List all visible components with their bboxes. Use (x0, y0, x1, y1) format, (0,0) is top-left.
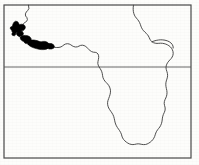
africa-map-svg (0, 0, 199, 165)
range-patch-small-island-a (16, 29, 21, 33)
map-background (0, 0, 199, 165)
range-patch-nigeria-west (46, 43, 54, 49)
range-patch-speck-d (24, 40, 28, 43)
range-patch-small-island-b (33, 42, 38, 46)
range-patch-speck-e (12, 32, 16, 35)
distribution-map-figure: Outline map of western, central and sout… (0, 0, 199, 165)
range-patch-speck-c (10, 26, 13, 29)
